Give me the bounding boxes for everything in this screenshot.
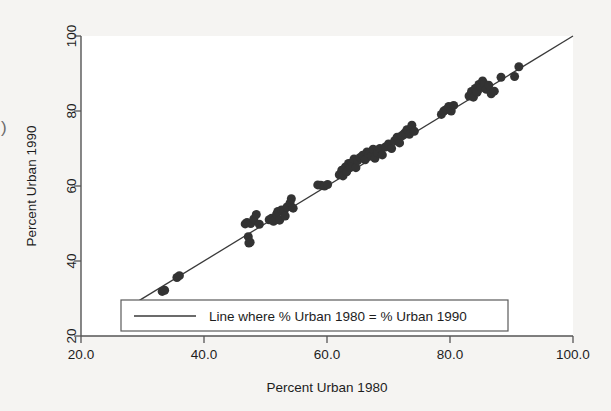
scatter-point — [410, 127, 419, 136]
scatter-plot: 20406080100 20.040.060.080.0100.0 Percen… — [0, 0, 611, 411]
x-axis-title: Percent Urban 1980 — [267, 380, 388, 395]
x-axis-ticks: 20.040.060.080.0100.0 — [68, 336, 590, 362]
legend: Line where % Urban 1980 = % Urban 1990 — [121, 300, 508, 331]
scatter-point — [497, 73, 506, 82]
y-tick-label-40: 40 — [64, 253, 79, 268]
x-tick-label-60.0: 60.0 — [314, 347, 340, 362]
x-tick-label-20.0: 20.0 — [68, 347, 94, 362]
scatter-point — [378, 150, 387, 159]
scatter-point — [449, 101, 458, 110]
scatter-point — [160, 286, 169, 295]
scatter-point — [323, 180, 332, 189]
y-tick-label-80: 80 — [64, 103, 79, 118]
y-tick-label-60: 60 — [64, 178, 79, 193]
scatter-point — [252, 210, 261, 219]
scatter-point — [289, 204, 298, 213]
y-tick-label-20: 20 — [64, 328, 79, 343]
x-tick-label-80.0: 80.0 — [437, 347, 463, 362]
y-axis-ticks: 20406080100 — [64, 25, 81, 344]
scan-edge-artifact: ) — [1, 118, 7, 137]
legend-entry-label: Line where % Urban 1980 = % Urban 1990 — [209, 309, 467, 324]
y-axis-title: Percent Urban 1990 — [24, 126, 39, 247]
x-tick-label-100.0: 100.0 — [556, 347, 590, 362]
y-tick-label-100: 100 — [64, 25, 79, 48]
scatter-point — [514, 62, 523, 71]
scatter-point — [287, 194, 296, 203]
figure-container: 20406080100 20.040.060.080.0100.0 Percen… — [0, 0, 611, 411]
scatter-point — [246, 238, 255, 247]
x-tick-label-40.0: 40.0 — [191, 347, 217, 362]
scatter-point — [387, 144, 396, 153]
scatter-point — [255, 220, 264, 229]
scatter-point — [175, 271, 184, 280]
scatter-point — [490, 87, 499, 96]
scatter-point — [281, 212, 290, 221]
scatter-point — [510, 72, 519, 81]
